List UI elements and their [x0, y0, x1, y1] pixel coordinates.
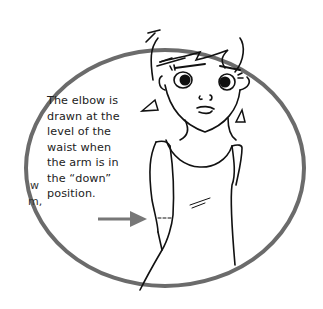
caption-line: drawn at the	[47, 109, 120, 125]
hair	[146, 30, 243, 80]
caption-line: the arm is in	[47, 155, 120, 171]
caption-line: the “down”	[47, 171, 120, 187]
earrings	[142, 100, 245, 122]
caption-line: position.	[47, 186, 120, 202]
clipped-side-text: w m,	[0, 178, 42, 210]
caption-line: waist when	[47, 140, 120, 156]
caption-line: level of the	[47, 124, 120, 140]
eyes	[174, 72, 235, 90]
body	[140, 118, 242, 290]
caption-line: The elbow is	[47, 93, 120, 109]
side-text-line: m,	[28, 194, 42, 210]
side-text-line: w	[30, 178, 42, 194]
caption: The elbow is drawn at the level of the w…	[47, 93, 120, 202]
arrow-icon	[98, 211, 147, 227]
